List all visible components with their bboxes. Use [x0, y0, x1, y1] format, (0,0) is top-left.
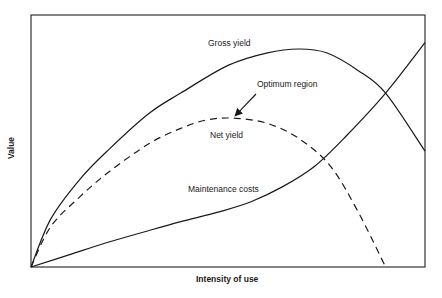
maintenance-costs-label: Maintenance costs — [188, 184, 259, 194]
y-axis-label: Value — [6, 137, 16, 159]
maintenance-costs-curve — [31, 43, 425, 267]
optimum-arrow — [236, 94, 256, 115]
series-layer — [31, 43, 425, 267]
gross-yield-label: Gross yield — [208, 38, 251, 48]
x-axis-label: Intensity of use — [196, 274, 258, 284]
net-yield-label: Net yield — [210, 130, 243, 140]
gross-yield-curve — [31, 49, 425, 267]
plot-frame — [31, 15, 425, 267]
optimum-region-label: Optimum region — [257, 79, 317, 89]
